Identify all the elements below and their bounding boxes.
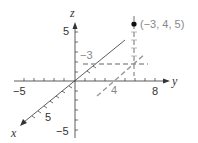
x-axis-label: x xyxy=(10,126,17,140)
dashed-line-y-4 xyxy=(97,54,145,96)
point-label: (−3, 4, 5) xyxy=(140,18,184,30)
y-tick-8: 8 xyxy=(152,85,158,97)
label-4: 4 xyxy=(111,84,117,96)
z-axis-label: z xyxy=(69,6,75,20)
y-tick-neg5: −5 xyxy=(13,85,26,97)
x-axis xyxy=(20,40,125,126)
y-arrow-icon xyxy=(163,79,170,84)
z-arrow-icon xyxy=(73,22,78,29)
x-tick-5: 5 xyxy=(45,111,51,123)
y-axis-label: y xyxy=(171,74,178,88)
z-tick-5: 5 xyxy=(63,25,69,37)
label-neg3: −3 xyxy=(80,49,93,61)
y-axis xyxy=(14,78,170,84)
3d-coordinate-diagram: z y x 5 −5 −5 8 5 −3 4 (−3, 4, 5) xyxy=(0,0,198,143)
z-tick-neg5: −5 xyxy=(56,125,69,137)
point-marker xyxy=(131,21,136,26)
